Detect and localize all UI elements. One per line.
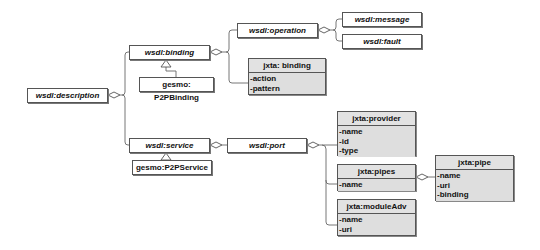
class-wsdl-operation[interactable]: wsdl:operation bbox=[237, 23, 318, 38]
class-label: wsdl:message bbox=[355, 15, 410, 24]
class-header: jxta:provider bbox=[338, 112, 415, 126]
class-header: jxta:pipe bbox=[436, 156, 513, 170]
class-gesmo-p2pservice[interactable]: gesmo:P2PService bbox=[132, 160, 212, 175]
class-attributes: -name -id -type bbox=[338, 126, 415, 157]
attribute: -name bbox=[339, 127, 415, 137]
class-attributes: -name -uri -binding bbox=[436, 170, 513, 201]
class-attributes: -name bbox=[338, 179, 415, 191]
attribute: -action bbox=[250, 74, 325, 84]
attribute: -name bbox=[339, 215, 415, 225]
class-jxta-pipe[interactable]: jxta:pipe -name -uri -binding bbox=[435, 155, 514, 201]
class-wsdl-description[interactable]: wsdl:description bbox=[27, 88, 108, 103]
class-label: wsdl:service bbox=[145, 141, 193, 150]
attribute: -name bbox=[339, 180, 415, 190]
class-jxta-moduleadv[interactable]: jxta:moduleAdv -name -uri bbox=[337, 199, 416, 236]
attribute: -type bbox=[339, 146, 415, 156]
class-header: jxta: binding bbox=[249, 59, 325, 73]
class-wsdl-binding[interactable]: wsdl:binding bbox=[129, 45, 210, 60]
attribute: -uri bbox=[437, 181, 513, 191]
class-wsdl-service[interactable]: wsdl:service bbox=[129, 138, 210, 153]
class-label: wsdl:operation bbox=[249, 26, 306, 35]
attribute: -name bbox=[437, 171, 513, 181]
attribute: -binding bbox=[437, 190, 513, 200]
class-jxta-provider[interactable]: jxta:provider -name -id -type bbox=[337, 111, 416, 156]
class-wsdl-fault[interactable]: wsdl:fault bbox=[342, 34, 422, 49]
class-attributes: -action -pattern bbox=[249, 73, 325, 94]
class-label: wsdl:fault bbox=[363, 37, 400, 46]
class-header: jxta:moduleAdv bbox=[338, 200, 415, 214]
class-jxta-pipes[interactable]: jxta:pipes -name bbox=[337, 164, 416, 191]
class-label: wsdl:binding bbox=[145, 48, 194, 57]
class-jxta-binding[interactable]: jxta: binding -action -pattern bbox=[248, 58, 326, 95]
class-wsdl-port[interactable]: wsdl:port bbox=[227, 138, 307, 153]
attribute: -id bbox=[339, 137, 415, 147]
class-label: gesmo:P2PService bbox=[136, 163, 208, 172]
class-wsdl-message[interactable]: wsdl:message bbox=[342, 12, 422, 27]
class-label: wsdl:description bbox=[36, 91, 100, 100]
class-label: wsdl:port bbox=[249, 141, 285, 150]
class-gesmo-p2pbinding[interactable]: gesmo: P2PBinding bbox=[139, 77, 214, 92]
class-label: gesmo: P2PBinding bbox=[154, 80, 199, 102]
class-header: jxta:pipes bbox=[338, 165, 415, 179]
class-attributes: -name -uri bbox=[338, 214, 415, 235]
attribute: -uri bbox=[339, 225, 415, 235]
uml-diagram: wsdl:description wsdl:binding gesmo: P2P… bbox=[0, 0, 540, 250]
attribute: -pattern bbox=[250, 84, 325, 94]
